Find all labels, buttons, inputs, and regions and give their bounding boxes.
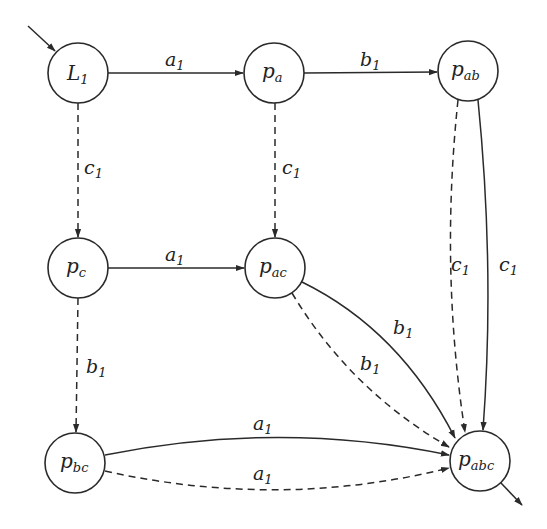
edge-pbc-pabc-dashed: [105, 468, 449, 490]
edge-label-pac-pabc-dashed: b1: [360, 352, 380, 377]
edge-label-pa-pac: c1: [282, 156, 301, 181]
state-pc: pc: [48, 238, 108, 298]
automaton-diagram: L1 pa pab pc pac pbc pabc a1 b1 c1 c1 a1…: [0, 0, 547, 529]
edge-pab-pabc-solid: [478, 100, 488, 430]
initial-arrow: [28, 26, 55, 51]
state-pbc: pbc: [45, 433, 105, 493]
edge-label-pab-pabc-dashed: c1: [451, 253, 470, 278]
edge-label-L1-pa: a1: [165, 48, 185, 73]
edge-label-pa-pab: b1: [360, 48, 380, 73]
edge-label-pbc-pabc-dashed: a1: [253, 462, 273, 487]
final-arrow: [500, 482, 522, 505]
edge-label-pac-pabc-solid: b1: [393, 316, 413, 341]
edge-pac-pabc-solid: [302, 282, 455, 438]
edge-pa-pab: [304, 72, 437, 73]
edge-label-pab-pabc-solid: c1: [499, 253, 518, 278]
edge-pbc-pabc-solid: [105, 438, 449, 456]
edge-label-pbc-pabc-solid: a1: [253, 412, 273, 437]
edge-pc-pbc: [76, 298, 78, 432]
state-pab: pab: [438, 41, 498, 101]
edge-label-pc-pac: a1: [165, 243, 185, 268]
edge-label-L1-pc: c1: [84, 156, 103, 181]
state-pac: pac: [245, 238, 305, 298]
state-pa: pa: [244, 43, 304, 103]
state-L1: L1: [48, 43, 108, 103]
edge-label-pc-pbc: b1: [86, 355, 106, 380]
state-pabc: pabc: [450, 431, 510, 491]
